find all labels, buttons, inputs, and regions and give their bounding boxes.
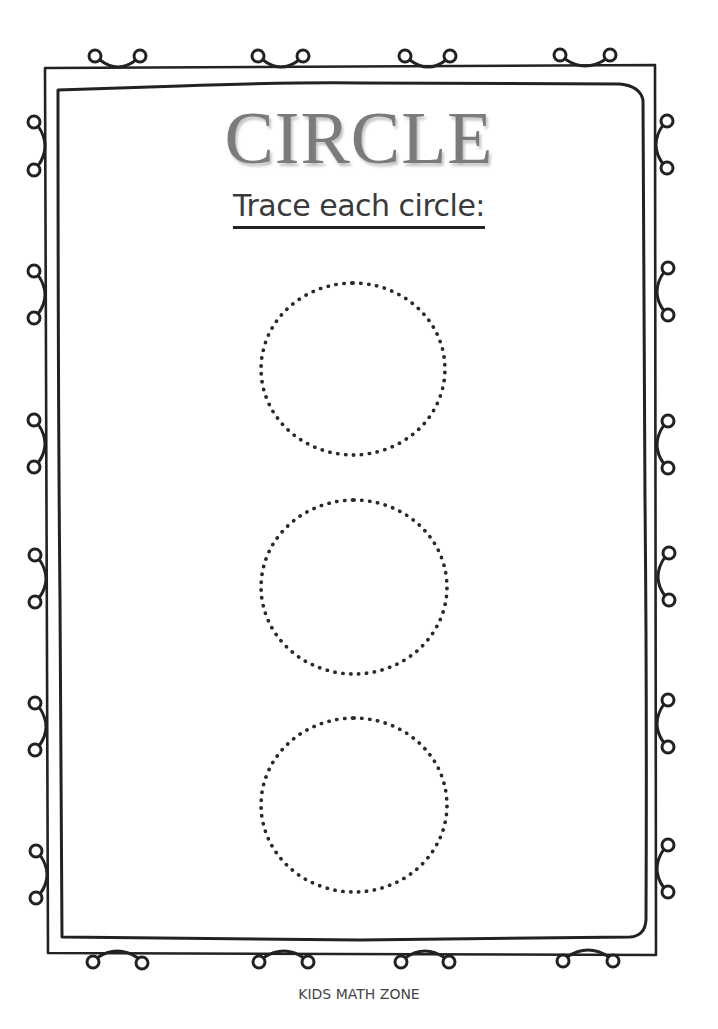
footer-brand: KIDS MATH ZONE (0, 986, 718, 1002)
worksheet-title: CIRCLE (0, 98, 718, 178)
tracing-circle-1 (259, 281, 447, 457)
instruction-text: Trace each circle: (233, 186, 485, 229)
tracing-circle-2 (259, 498, 449, 676)
instruction-heading: Trace each circle: (0, 186, 718, 229)
tracing-circle-3 (259, 716, 449, 894)
